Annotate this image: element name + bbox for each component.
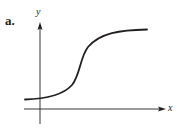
sigmoid-graph bbox=[0, 0, 177, 131]
sigmoid-curve bbox=[25, 30, 147, 100]
